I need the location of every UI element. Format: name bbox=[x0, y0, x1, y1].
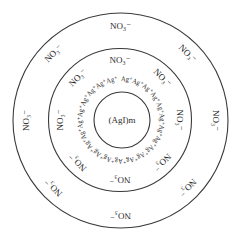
inner-nitrate-ion: NO₃⁻ bbox=[175, 110, 185, 131]
outer-nitrate-ion: NO₃⁻ bbox=[110, 211, 131, 221]
inner-nitrate-ion: NO₃⁻ bbox=[151, 67, 173, 89]
micelle-diagram: (AgI)m Ag⁺Ag⁺Ag⁺Ag⁺Ag⁺Ag⁺Ag⁺Ag⁺Ag⁺Ag⁺Ag⁺… bbox=[0, 0, 237, 239]
inner-nitrate-ion: NO₃⁻ bbox=[67, 151, 89, 173]
outer-nitrate-ion: NO₃⁻ bbox=[42, 177, 64, 199]
outer-nitrate-ion: NO₃⁻ bbox=[110, 21, 131, 31]
core-label: (AgI)m bbox=[109, 115, 136, 125]
outer-nitrate-ion: NO₃⁻ bbox=[177, 42, 199, 64]
outer-nitrate-ion: NO₃⁻ bbox=[211, 110, 221, 131]
outer-nitrate-ion: NO₃⁻ bbox=[177, 177, 199, 199]
inner-nitrate-ion: NO₃⁻ bbox=[109, 175, 130, 185]
inner-nitrate-ion: NO₃⁻ bbox=[55, 109, 65, 130]
inner-nitrate-ion: NO₃⁻ bbox=[110, 55, 131, 65]
inner-nitrate-ion: NO₃⁻ bbox=[67, 67, 89, 89]
inner-nitrate-ion: NO₃⁻ bbox=[151, 151, 173, 173]
outer-nitrate-ion: NO₃⁻ bbox=[42, 42, 64, 64]
outer-nitrate-ion: NO₃⁻ bbox=[21, 110, 31, 131]
